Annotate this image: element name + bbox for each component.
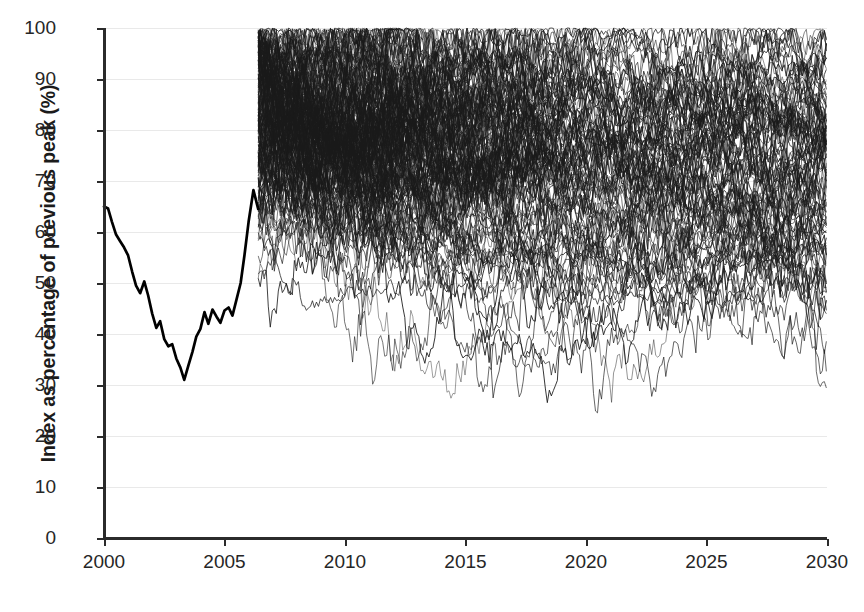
- historical-line: [104, 190, 258, 380]
- fan-chart-figure: Index as percentage of previous peak (%)…: [0, 0, 864, 612]
- simulation-paths: [258, 28, 826, 413]
- plot-canvas: [0, 0, 864, 612]
